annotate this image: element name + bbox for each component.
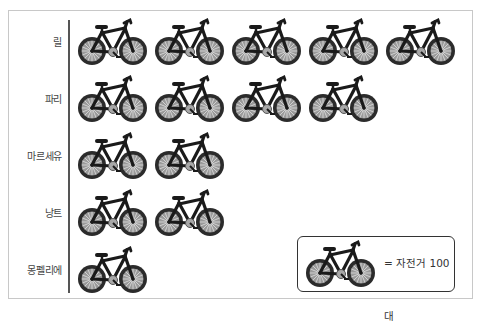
- category-label: 마르세유: [10, 132, 62, 182]
- legend-box: = 자전거 100대: [297, 236, 455, 292]
- bicycle-icon: [383, 18, 459, 68]
- icon-group: [75, 75, 383, 125]
- bicycle-icon: [306, 75, 382, 125]
- bicycle-icon: [75, 75, 151, 125]
- icon-group: [75, 189, 229, 239]
- bicycle-icon: [229, 18, 305, 68]
- bicycle-icon: [152, 75, 228, 125]
- bicycle-icon: [75, 18, 151, 68]
- category-label: 릴: [10, 18, 62, 68]
- legend-bicycle-icon: [303, 240, 379, 290]
- legend-text: = 자전거 100대: [384, 237, 454, 325]
- category-axis-line: [68, 20, 70, 293]
- bicycle-icon: [152, 18, 228, 68]
- bicycle-icon: [152, 189, 228, 239]
- bicycle-icon: [229, 75, 305, 125]
- bicycle-icon: [75, 246, 151, 296]
- category-label: 몽펠리에: [10, 246, 62, 296]
- bicycle-icon: [75, 189, 151, 239]
- icon-group: [75, 246, 152, 296]
- bicycle-icon: [306, 18, 382, 68]
- bicycle-icon: [152, 132, 228, 182]
- category-label: 파리: [10, 75, 62, 125]
- bicycle-icon: [75, 132, 151, 182]
- icon-group: [75, 18, 460, 68]
- category-label: 낭트: [10, 189, 62, 239]
- icon-group: [75, 132, 229, 182]
